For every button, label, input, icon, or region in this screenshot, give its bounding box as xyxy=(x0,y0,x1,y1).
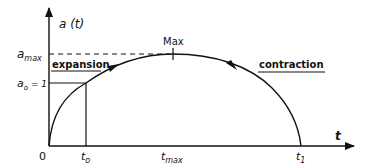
origin-label: 0 xyxy=(39,150,46,163)
t-1-label: t1 xyxy=(296,150,305,165)
t-o-label: to xyxy=(81,150,90,165)
x-axis-label: t xyxy=(335,129,342,143)
expansion-arrow-icon xyxy=(108,64,119,72)
a-max-label: amax xyxy=(17,47,42,63)
expansion-label: expansion xyxy=(52,59,110,70)
a-o-label: ao = 1 xyxy=(17,77,47,92)
scale-factor-diagram: a (t) amax ao = 1 expansion contraction … xyxy=(0,0,365,167)
t-max-label: tmax xyxy=(161,150,183,165)
y-axis-label: a (t) xyxy=(59,17,84,31)
max-label: Max xyxy=(163,36,184,47)
contraction-label: contraction xyxy=(259,59,324,70)
